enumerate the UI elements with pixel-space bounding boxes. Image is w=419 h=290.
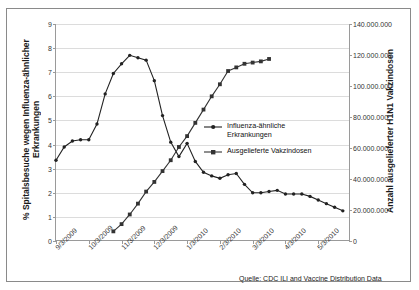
left-tick-label: 0	[48, 238, 52, 245]
data-point	[300, 192, 303, 195]
data-point	[185, 142, 188, 145]
data-point	[161, 114, 164, 117]
data-point	[144, 190, 148, 194]
data-point	[153, 79, 156, 82]
legend-label: Influenza-ähnliche Erkrankungen	[227, 121, 319, 139]
data-point	[267, 57, 271, 61]
data-point	[136, 202, 140, 206]
data-point	[128, 213, 132, 217]
data-point	[202, 171, 205, 174]
data-point	[202, 108, 206, 112]
data-point	[218, 82, 222, 86]
data-point	[112, 72, 115, 75]
data-point	[62, 145, 65, 148]
data-point	[136, 56, 139, 59]
data-point	[292, 192, 295, 195]
left-tick-label: 1	[48, 213, 52, 220]
data-point	[243, 183, 246, 186]
square-marker	[203, 147, 223, 157]
data-point	[177, 145, 181, 149]
data-point	[111, 229, 115, 233]
data-point	[267, 190, 270, 193]
left-tick-label: 6	[48, 93, 52, 100]
source-note: Quelle: CDC ILI and Vaccine Distribution…	[239, 275, 382, 282]
right-tick-label: 120.000.000	[353, 52, 392, 59]
left-tick-label: 9	[48, 21, 52, 28]
right-tick-label: 140.000.000	[353, 21, 392, 28]
right-tick-label: 20.000.000	[353, 207, 388, 214]
data-point	[259, 59, 263, 63]
data-point	[54, 159, 57, 162]
data-point	[284, 192, 287, 195]
axis-tick	[349, 241, 352, 242]
data-point	[185, 134, 189, 138]
data-point	[71, 139, 74, 142]
data-point	[226, 173, 229, 176]
data-point	[341, 209, 344, 212]
data-point	[79, 138, 82, 141]
right-axis-title: Anzahl ausgelieferter H1N1 Vakzindosen	[378, 39, 404, 224]
data-point	[194, 160, 197, 163]
data-point	[144, 58, 147, 61]
data-point	[210, 94, 214, 98]
left-tick-label: 8	[48, 45, 52, 52]
data-point	[87, 138, 90, 141]
data-point	[120, 222, 124, 226]
data-point	[193, 121, 197, 125]
legend-item: Influenza-ähnliche Erkrankungen	[203, 121, 319, 139]
data-point	[251, 61, 255, 65]
data-point	[317, 198, 320, 201]
data-point	[161, 169, 165, 173]
legend: Influenza-ähnliche ErkrankungenAusgelief…	[203, 121, 319, 164]
diamond-marker	[203, 122, 223, 132]
legend-item: Ausgelieferte Vakzindosen	[203, 146, 319, 157]
data-point	[218, 177, 221, 180]
data-point	[210, 174, 213, 177]
left-tick-label: 7	[48, 69, 52, 76]
data-point	[333, 206, 336, 209]
left-tick-label: 3	[48, 165, 52, 172]
data-point	[169, 140, 172, 143]
left-tick-label: 2	[48, 189, 52, 196]
right-tick-label: 80.000.000	[353, 114, 388, 121]
data-point	[259, 191, 262, 194]
data-point	[251, 191, 254, 194]
left-tick-label: 5	[48, 117, 52, 124]
chart-frame: % Spitalsbesuche wegen Influenza-ähnlich…	[6, 8, 411, 282]
left-axis-title: % Spitalsbesuche wegen Influenza-ähnlich…	[17, 27, 47, 232]
data-point	[128, 54, 131, 57]
data-point	[169, 158, 173, 162]
right-tick-label: 60.000.000	[353, 145, 388, 152]
data-point	[120, 62, 123, 65]
right-tick-label: 40.000.000	[353, 176, 388, 183]
data-point	[95, 122, 98, 125]
left-tick-label: 4	[48, 141, 52, 148]
data-point	[103, 92, 106, 95]
data-point	[243, 62, 247, 66]
data-point	[308, 195, 311, 198]
data-point	[234, 66, 238, 70]
data-point	[226, 69, 230, 73]
data-point	[235, 172, 238, 175]
data-point	[276, 189, 279, 192]
data-point	[325, 202, 328, 205]
legend-label: Ausgelieferte Vakzindosen	[227, 146, 312, 155]
right-tick-label: 0	[353, 238, 357, 245]
data-point	[177, 155, 180, 158]
data-point	[152, 180, 156, 184]
right-tick-label: 100.000.000	[353, 83, 392, 90]
